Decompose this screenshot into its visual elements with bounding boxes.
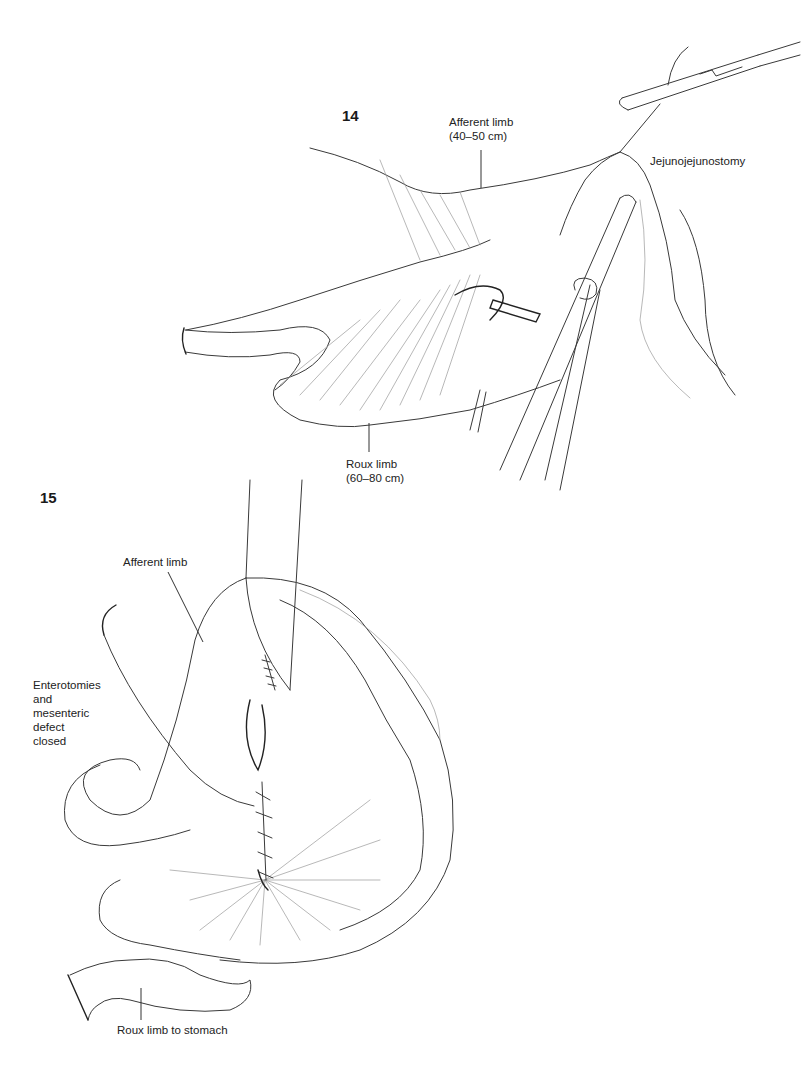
label-afferent-limb-14-line1: Afferent limb xyxy=(449,115,513,129)
label-roux-limb-14: Roux limb (60–80 cm) xyxy=(346,457,404,485)
label-closure-line2: and xyxy=(33,692,101,706)
label-roux-limb-14-line2: (60–80 cm) xyxy=(346,471,404,485)
label-roux-limb-14-line1: Roux limb xyxy=(346,457,404,471)
label-afferent-limb-14: Afferent limb (40–50 cm) xyxy=(449,115,513,143)
label-closure-line1: Enterotomies xyxy=(33,678,101,692)
label-closure-line3: mesenteric xyxy=(33,706,101,720)
linear-stapler-icon xyxy=(470,195,636,490)
label-afferent-limb-14-line2: (40–50 cm) xyxy=(449,129,513,143)
needle-driver-icon xyxy=(619,42,800,110)
suture-thread xyxy=(620,104,660,152)
label-afferent-limb-15: Afferent limb xyxy=(123,555,187,569)
bowel-loop-14 xyxy=(182,148,735,427)
label-closure-line4: defect xyxy=(33,720,101,734)
figure-number-15: 15 xyxy=(40,489,57,506)
label-closure: Enterotomies and mesenteric defect close… xyxy=(33,678,101,748)
label-jejunojejunostomy: Jejunojejunostomy xyxy=(650,154,745,168)
figure-number-14: 14 xyxy=(342,107,359,124)
label-closure-line5: closed xyxy=(33,734,101,748)
label-roux-limb-to-stomach: Roux limb to stomach xyxy=(117,1023,228,1037)
